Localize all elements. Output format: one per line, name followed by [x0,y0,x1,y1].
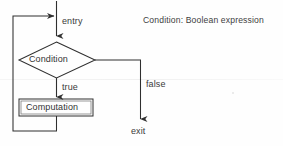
false-edge [95,60,141,119]
flowchart-canvas: Condition: Boolean expression entry Cond… [0,0,283,146]
process-label: Computation [26,103,78,112]
entry-label: entry [62,17,83,26]
false-label: false [146,80,166,89]
false-arrow [95,60,141,119]
caption-condition-definition: Condition: Boolean expression [143,16,264,25]
decision-label: Condition [29,55,68,64]
exit-label: exit [131,127,145,136]
true-label: true [62,83,78,92]
